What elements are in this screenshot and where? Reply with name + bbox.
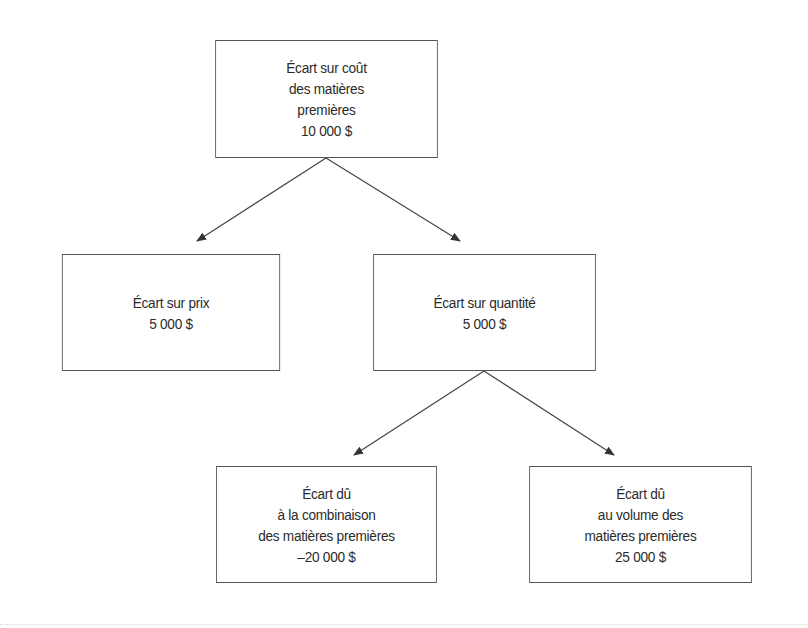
node-root-material-cost-variance: Écart sur coût des matières premières 10… (215, 40, 438, 158)
node-value: 5 000 $ (149, 313, 193, 334)
node-volume-variance: Écart dû au volume des matières première… (529, 466, 752, 583)
arrow-quantity-to-volume (484, 371, 614, 455)
node-line: Écart dû (302, 483, 351, 504)
node-value: 25 000 $ (615, 546, 666, 567)
node-quantity-variance: Écart sur quantité 5 000 $ (373, 254, 596, 371)
node-line: à la combinaison (277, 504, 375, 525)
node-value: –20 000 $ (297, 546, 355, 567)
node-line: Écart sur prix (133, 292, 210, 313)
node-line: des matières (289, 78, 364, 99)
node-line: Écart sur quantité (433, 292, 535, 313)
node-value: 5 000 $ (463, 313, 507, 334)
node-line: premières (297, 99, 355, 120)
node-line: Écart dû (616, 483, 665, 504)
node-line: au volume des (598, 504, 683, 525)
arrow-root-to-quantity (326, 158, 460, 241)
bottom-divider (0, 624, 808, 625)
node-price-variance: Écart sur prix 5 000 $ (62, 254, 280, 371)
node-mix-variance: Écart dû à la combinaison des matières p… (216, 466, 437, 583)
node-line: des matières premières (258, 525, 395, 546)
arrow-quantity-to-mix (354, 371, 484, 455)
node-line: matières premières (584, 525, 696, 546)
node-value: 10 000 $ (301, 120, 352, 141)
node-line: Écart sur coût (286, 57, 366, 78)
arrow-root-to-price (197, 158, 326, 241)
